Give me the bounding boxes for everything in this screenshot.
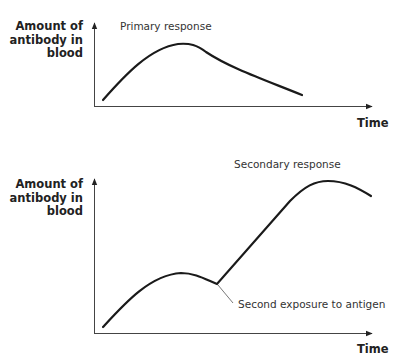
ylabel-line: Amount of: [0, 178, 83, 192]
secondary-response-title: Secondary response: [234, 158, 341, 170]
second-exposure-annotation: Second exposure to antigen: [238, 298, 385, 310]
secondary-x-axis-label: Time: [357, 342, 389, 356]
ylabel-line: blood: [0, 205, 83, 219]
secondary-axes: [94, 179, 372, 334]
ylabel-line: antibody in: [0, 34, 83, 48]
secondary-y-axis-label: Amount of antibody in blood: [0, 178, 83, 219]
primary-response-title: Primary response: [120, 20, 212, 32]
primary-response-curve: [103, 44, 302, 100]
annotation-leader-line: [218, 285, 233, 303]
ylabel-line: Amount of: [0, 20, 83, 34]
primary-axes: [94, 23, 372, 107]
ylabel-line: antibody in: [0, 192, 83, 206]
primary-y-axis-label: Amount of antibody in blood: [0, 20, 83, 61]
primary-x-axis-label: Time: [357, 116, 389, 130]
ylabel-line: blood: [0, 47, 83, 61]
